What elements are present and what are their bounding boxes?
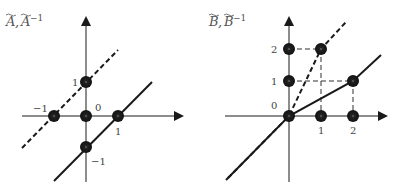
x-tick-1: 1 [115,126,121,137]
x-tick-neg1: −1 [33,103,48,114]
panel-a-title: A , A −1 [5,13,43,29]
origin-label: 0 [95,102,101,113]
y-tick-1: 1 [72,77,78,88]
origin-label: 0 [271,100,277,111]
y-tick-2: 2 [271,44,277,55]
inverse-line-dashed [22,50,118,148]
x-tick-2: 2 [350,125,356,136]
svg-text:−1: −1 [30,13,43,23]
svg-text:,: , [15,14,19,29]
points [48,76,124,153]
y-tick-1: 1 [271,76,277,87]
panel-a: A , A −1 0 1 −1 1 −1 [5,13,182,182]
svg-text:,: , [218,14,222,29]
x-tick-1: 1 [318,125,324,136]
svg-text:−1: −1 [233,13,246,23]
y-tick-neg1: −1 [91,156,106,167]
panel-b-title: B , B −1 [208,13,246,29]
guide-lines [289,49,353,116]
panel-b: B , B −1 [208,13,386,182]
diagram-canvas: A , A −1 0 1 −1 1 −1 B [0,0,396,196]
